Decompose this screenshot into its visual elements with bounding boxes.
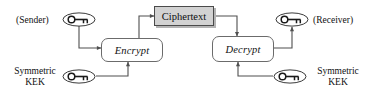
edge-decrypt-to-receiver-key — [274, 27, 292, 48]
receiver-key-icon — [275, 12, 309, 27]
edge-sender-key-to-encrypt — [79, 26, 101, 48]
receiver-label: (Receiver) — [313, 15, 353, 25]
sender-key-icon — [62, 12, 96, 27]
symmetric-kek-right-line1: Symmetric — [311, 66, 365, 77]
symmetric-kek-left-key-icon — [62, 69, 96, 84]
ciphertext-label: Ciphertext — [162, 11, 206, 22]
ciphertext-box: Ciphertext — [154, 6, 214, 26]
edge-encrypt-to-ciphertext — [139, 16, 154, 38]
symmetric-kek-left-line1: Symmetric — [8, 66, 62, 77]
encrypt-label: Encrypt — [115, 45, 150, 56]
symmetric-kek-left-line2: KEK — [8, 77, 62, 88]
symmetric-kek-right-line2: KEK — [311, 77, 365, 88]
decrypt-label: Decrypt — [225, 44, 260, 55]
symmetric-kek-right-key-icon — [273, 69, 307, 84]
edge-ciphertext-to-decrypt — [214, 16, 237, 36]
symmetric-kek-diagram: (Sender) Ciphertext (Receiver) Encrypt D… — [0, 0, 367, 98]
edge-kek-left-to-encrypt — [96, 62, 128, 76]
encrypt-box: Encrypt — [101, 38, 163, 62]
edge-kek-right-to-decrypt — [238, 62, 273, 76]
decrypt-box: Decrypt — [212, 36, 274, 62]
symmetric-kek-left-label: Symmetric KEK — [8, 66, 62, 87]
symmetric-kek-right-label: Symmetric KEK — [311, 66, 365, 87]
sender-label: (Sender) — [16, 15, 49, 25]
